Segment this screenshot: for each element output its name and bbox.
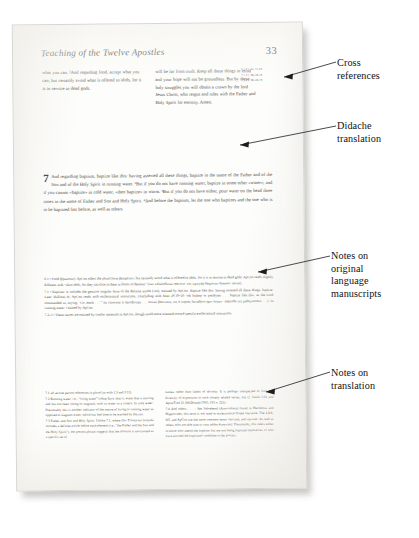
translation-note: 7.3 Father and Son and Holy Spirit: Unli… xyxy=(46,418,154,441)
translation-note: 7.2 Running water: i.e., “living water” … xyxy=(45,396,153,419)
annotation-original-language-notes: Notes onoriginallanguagemanuscripts xyxy=(331,250,417,301)
annotation-didache-translation: Didachetranslation xyxy=(337,120,417,145)
page-sheet: Teaching of the Twelve Apostles 33 what … xyxy=(12,22,307,492)
textual-note: 7.1 • Baptism: It includes the genitive … xyxy=(44,287,273,312)
textual-note: 6.3 • Food (βρωσεως). ApCon offers the p… xyxy=(44,275,273,289)
running-head: Teaching of the Twelve Apostles 33 xyxy=(41,45,277,58)
running-head-title: Teaching of the Twelve Apostles xyxy=(41,47,165,58)
translation-note: 7.4 And others . . . : See Sabrehend (Απ… xyxy=(165,406,273,440)
translation-notes-column-right: names rather than labels of divinity. It… xyxy=(165,389,273,440)
cross-reference-block: 6.3 Cf. Ac 15.29 7.1 Cf. Mt 28.19 7.3 Cf… xyxy=(241,67,283,84)
main-text-block: what you can. ²And regarding food, accep… xyxy=(42,67,278,108)
annotation-translation-notes: Notes ontranslation xyxy=(331,367,417,392)
page-number: 33 xyxy=(266,45,277,56)
annotation-cross-references: Crossreferences xyxy=(337,57,417,82)
chapter-number: 7 xyxy=(43,174,49,183)
translation-note: names rather than labels of divinity. It… xyxy=(165,389,273,407)
chapter-seven-text: And regarding baptism, baptize like this… xyxy=(43,171,272,214)
body-column-left: what you can. ²And regarding food, accep… xyxy=(42,68,144,92)
book-page-scan: Teaching of the Twelve Apostles 33 what … xyxy=(0,0,419,538)
body-paragraph-left: what you can. ²And regarding food, accep… xyxy=(42,68,144,92)
textual-note: 7.2–3 • These verses are omitted by simi… xyxy=(45,311,274,319)
chapter-seven-block: 7 And regarding baptism, baptize like th… xyxy=(43,171,272,214)
textual-notes-block: 6.3 • Food (βρωσεως). ApCon offers the p… xyxy=(44,275,273,320)
translation-notes-block: 7.1 all second person references in plur… xyxy=(45,389,274,441)
cross-reference-item: 7.3 Cf. Mt 28.19 xyxy=(241,78,283,84)
translation-notes-column-left: 7.1 all second person references in plur… xyxy=(45,390,153,441)
